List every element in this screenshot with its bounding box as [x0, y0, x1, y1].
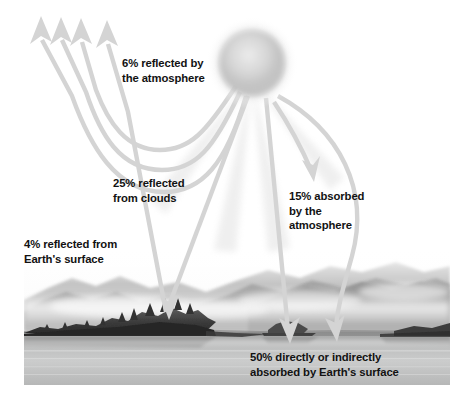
scene-illustration: [0, 0, 464, 402]
label-surface-absorbed: 50% directly or indirectly absorbed by E…: [250, 350, 399, 379]
label-atmosphere-reflected: 6% reflected by the atmosphere: [122, 56, 205, 85]
label-earth-surface-reflected: 4% reflected from Earth's surface: [24, 237, 117, 266]
label-clouds-reflected: 25% reflected from clouds: [113, 176, 185, 205]
label-atmosphere-absorbed: 15% absorbed by the atmosphere: [289, 189, 364, 233]
sun: [206, 17, 298, 109]
arrowhead-earth-surface-reflect: [96, 20, 118, 48]
energy-budget-figure: 6% reflected by the atmosphere 25% refle…: [0, 0, 464, 402]
arrowhead-clouds-reflect: [30, 16, 52, 44]
arrowhead-atmosphere-reflect-1: [70, 18, 92, 46]
sun-disc: [219, 30, 285, 96]
